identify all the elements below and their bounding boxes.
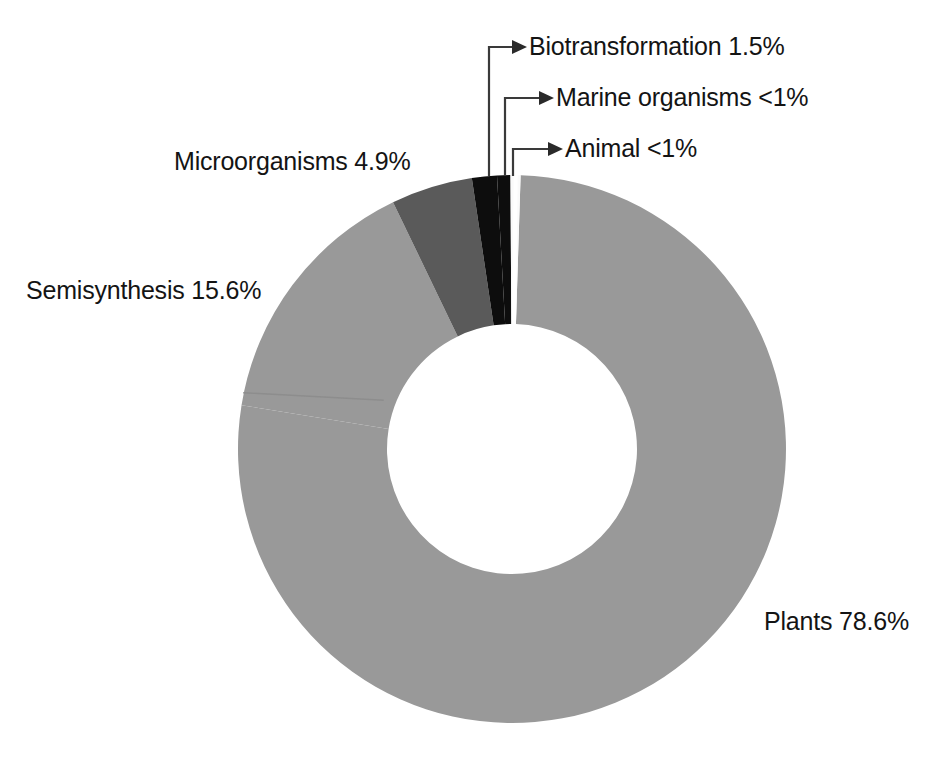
leader-line-animal: [513, 149, 548, 176]
slice-label-plants: Plants 78.6%: [764, 608, 909, 636]
donut-chart-figure: Biotransformation 1.5% Marine organisms …: [0, 0, 948, 765]
slice-label-animal: Animal <1%: [565, 135, 697, 163]
slice-label-biotransformation: Biotransformation 1.5%: [529, 33, 784, 61]
slice-label-semisynthesis: Semisynthesis 15.6%: [26, 277, 261, 305]
donut-slices: [238, 175, 786, 723]
donut-chart-graphic: [0, 0, 948, 765]
leader-arrow-marine-organisms: [539, 91, 554, 105]
leader-arrow-biotransformation: [512, 40, 527, 54]
leader-line-marine-organisms: [505, 98, 539, 176]
slice-label-microorganisms: Microorganisms 4.9%: [174, 148, 411, 176]
leader-arrow-animal: [548, 142, 563, 156]
leader-line-biotransformation: [489, 47, 512, 176]
divider-animal-plants: [514, 175, 516, 324]
slice-label-marine-organisms: Marine organisms <1%: [556, 84, 808, 112]
